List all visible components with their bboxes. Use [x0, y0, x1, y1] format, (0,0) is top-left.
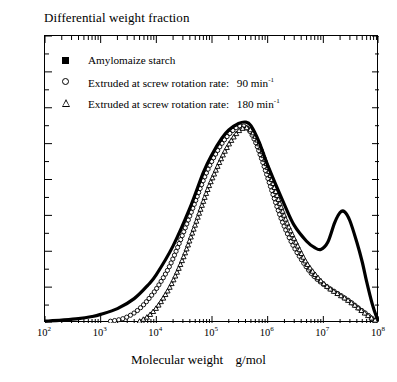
legend-label-1: Amylomaize starch — [88, 50, 175, 71]
x-tick-1e5: 105 — [204, 325, 218, 338]
figure: Differential weight fraction 0.00.10.20.… — [0, 0, 397, 382]
open-circle-icon — [62, 78, 88, 85]
x-tick-1e8: 108 — [371, 325, 385, 338]
x-axis-title-main: Molecular weight — [131, 352, 223, 367]
chart-top-title: Differential weight fraction — [44, 10, 190, 26]
filled-square-icon — [62, 57, 88, 64]
x-tick-1e7: 107 — [315, 325, 329, 338]
legend-label-3: Extruded at screw rotation rate: 180 min… — [88, 91, 280, 115]
x-tick-1e6: 106 — [260, 325, 274, 338]
x-tick-1e4: 104 — [148, 325, 162, 338]
x-axis-title-unit: g/mol — [236, 352, 266, 367]
legend-entry-2: Extruded at screw rotation rate: 90 min-… — [62, 71, 312, 92]
legend-entry-3: Extruded at screw rotation rate: 180 min… — [62, 92, 312, 113]
legend-entry-1: Amylomaize starch — [62, 50, 312, 71]
x-tick-1e2: 102 — [37, 325, 51, 338]
x-axis-title: Molecular weight g/mol — [0, 352, 397, 368]
x-tick-1e3: 103 — [93, 325, 107, 338]
open-triangle-icon — [62, 99, 88, 107]
chart-legend: Amylomaize starchExtruded at screw rotat… — [62, 50, 312, 113]
